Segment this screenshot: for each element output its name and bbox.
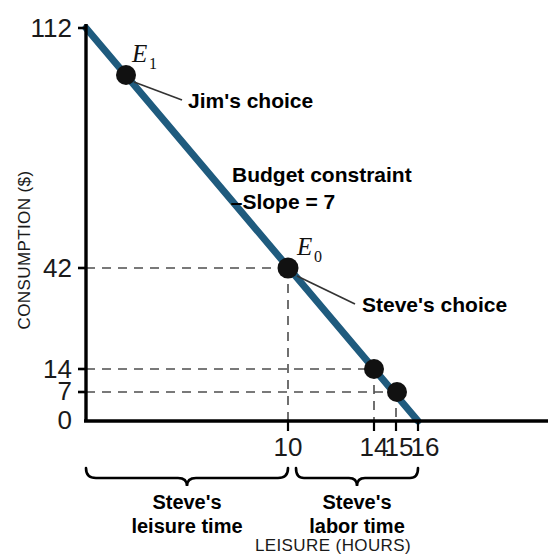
marker-point-15 [387,382,407,402]
brace-label-leisure-line2: leisure time [131,515,242,537]
x-tick-label-15: 15 [385,432,414,462]
budget-constraint-chart: 112 42 14 7 0 10 14 15 16 CONSUMPTION ($… [0,0,558,558]
brace-leisure-time [86,468,288,486]
y-axis-title: CONSUMPTION ($) [15,171,34,330]
annotation-jims-choice: Jim's choice [188,89,313,112]
annotation-steves-choice: Steve's choice [362,293,507,316]
label-E0-letter: E [296,233,312,260]
marker-point-14 [364,359,384,379]
y-tick-label-42: 42 [43,253,72,283]
y-tick-label-0: 0 [58,405,72,435]
brace-labor-time [296,468,418,486]
brace-label-labor-line1: Steve's [322,491,391,513]
label-E1-subscript: 1 [149,55,157,72]
x-axis-title: LEISURE (HOURS) [255,536,411,555]
x-tick-label-16: 16 [411,432,440,462]
label-E0-subscript: 0 [314,248,322,265]
y-tick-label-112: 112 [31,13,72,43]
annotation-budget-constraint: Budget constraint [232,163,412,186]
label-E1-letter: E [131,40,147,67]
label-E1: E 1 [131,40,157,72]
marker-E0 [278,258,299,279]
brace-label-labor-line2: labor time [309,515,405,537]
brace-label-leisure-line1: Steve's [152,491,221,513]
label-E0: E 0 [296,233,322,265]
y-tick-label-7: 7 [58,376,72,406]
x-tick-label-10: 10 [274,432,303,462]
chart-figure: 112 42 14 7 0 10 14 15 16 CONSUMPTION ($… [0,0,558,558]
marker-E1 [116,65,136,85]
annotation-budget-slope: –Slope = 7 [231,190,335,213]
